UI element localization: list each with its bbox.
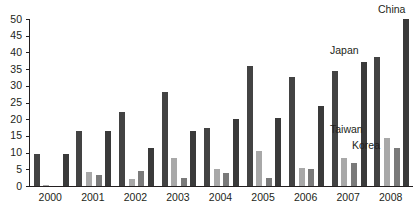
y-axis: 05101520253035404550 — [0, 0, 26, 219]
bar-group — [115, 10, 158, 186]
bar-taiwan-2005 — [256, 151, 262, 186]
y-tick-label: 20 — [10, 114, 22, 124]
bar-taiwan-2004 — [214, 169, 220, 186]
series-annotation-japan: Japan — [330, 45, 359, 56]
bar-china-2004 — [233, 119, 239, 186]
x-tick-label: 2008 — [369, 191, 412, 203]
bar-china-2005 — [275, 118, 281, 186]
bar-china-2003 — [190, 131, 196, 186]
bar-group — [30, 10, 73, 186]
bar-taiwan-2007 — [341, 158, 347, 186]
bar-korea-2004 — [223, 173, 229, 186]
bar-group — [328, 10, 371, 186]
bar-group — [73, 10, 116, 186]
x-tick-label: 2003 — [157, 191, 200, 203]
y-tick-mark — [26, 169, 30, 170]
x-tick-label: 2000 — [29, 191, 72, 203]
x-tick-label: 2005 — [242, 191, 285, 203]
bar-china-2002 — [148, 148, 154, 186]
bar-japan-2008 — [374, 57, 380, 186]
y-tick-label: 40 — [10, 47, 22, 57]
bar-taiwan-2003 — [171, 158, 177, 186]
bar-china-2001 — [105, 131, 111, 186]
bar-japan-2003 — [162, 92, 168, 186]
bar-korea-2001 — [96, 175, 102, 186]
y-tick-label: 10 — [10, 147, 22, 157]
bar-china-2008 — [403, 19, 409, 186]
y-tick-label: 45 — [10, 30, 22, 40]
bar-japan-2004 — [204, 128, 210, 186]
bar-korea-2006 — [308, 169, 314, 186]
y-tick-label: 0 — [16, 181, 22, 191]
bar-japan-2005 — [247, 66, 253, 186]
series-annotation-korea: Korea — [352, 140, 380, 151]
y-tick-mark — [26, 52, 30, 53]
bar-korea-2002 — [138, 171, 144, 186]
bar-group — [158, 10, 201, 186]
bar-korea-2008 — [394, 148, 400, 186]
bar-taiwan-2008 — [384, 138, 390, 186]
y-tick-mark — [26, 153, 30, 154]
y-tick-mark — [26, 186, 30, 187]
series-annotation-taiwan: Taiwan — [330, 124, 363, 135]
bar-korea-2007 — [351, 163, 357, 186]
bar-japan-2006 — [289, 77, 295, 186]
y-tick-mark — [26, 86, 30, 87]
x-tick-label: 2004 — [199, 191, 242, 203]
bar-china-2000 — [63, 154, 69, 186]
y-tick-label: 35 — [10, 64, 22, 74]
y-tick-label: 25 — [10, 97, 22, 107]
y-tick-mark — [26, 19, 30, 20]
bar-korea-2005 — [266, 178, 272, 186]
x-axis-line — [29, 186, 413, 187]
y-tick-label: 30 — [10, 80, 22, 90]
bar-taiwan-2006 — [299, 168, 305, 186]
bar-group — [370, 10, 413, 186]
bar-korea-2003 — [181, 178, 187, 186]
bar-group — [285, 10, 328, 186]
bar-taiwan-2001 — [86, 172, 92, 186]
y-tick-mark — [26, 36, 30, 37]
plot-area — [30, 10, 413, 187]
x-tick-label: 2001 — [72, 191, 115, 203]
x-axis: 200020012002200320042005200620072008 — [29, 191, 413, 209]
bar-japan-2001 — [76, 131, 82, 186]
bar-japan-2000 — [34, 154, 40, 186]
series-annotation-china: China — [378, 4, 405, 15]
y-tick-mark — [26, 103, 30, 104]
y-tick-label: 5 — [16, 164, 22, 174]
y-tick-mark — [26, 136, 30, 137]
bar-taiwan-2002 — [129, 179, 135, 186]
x-tick-label: 2007 — [327, 191, 370, 203]
x-tick-label: 2002 — [114, 191, 157, 203]
bar-japan-2002 — [119, 112, 125, 186]
bar-chart: 05101520253035404550 2000200120022003200… — [0, 0, 416, 219]
bar-group — [243, 10, 286, 186]
y-tick-mark — [26, 119, 30, 120]
bar-group — [200, 10, 243, 186]
y-tick-label: 50 — [10, 14, 22, 24]
y-tick-mark — [26, 69, 30, 70]
x-tick-label: 2006 — [284, 191, 327, 203]
bar-china-2006 — [318, 106, 324, 186]
y-tick-label: 15 — [10, 130, 22, 140]
